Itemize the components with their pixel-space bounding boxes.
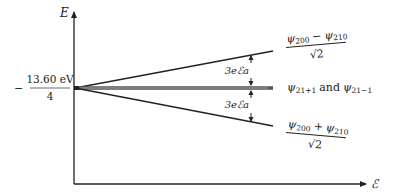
reference-level-label: − 13.60 eV 4 (14, 73, 74, 102)
upper-state-label: ψ200−ψ210 √2 (285, 27, 350, 63)
upper-denominator: √2 (309, 47, 324, 61)
stark-effect-diagram: E ℰ − 13.60 eV 4 3eℰa 3eℰa ψ200−ψ210 √2 (0, 0, 395, 195)
svg-text:ψ200+ψ210: ψ200+ψ210 (287, 118, 349, 137)
lower-denominator: √2 (308, 137, 323, 151)
reference-numerator: 13.60 eV (26, 73, 74, 85)
upper-splitting-label: 3eℰa (225, 65, 249, 76)
reference-denominator: 4 (47, 90, 54, 102)
svg-text:ψ21+1andψ21−1: ψ21+1andψ21−1 (287, 81, 372, 95)
vertex-dot (74, 86, 79, 90)
lower-splitting-label: 3eℰa (225, 99, 249, 110)
energy-axis-label: E (59, 6, 69, 20)
middle-state-label: ψ21+1andψ21−1 (287, 81, 372, 95)
lower-state-label: ψ200+ψ210 √2 (285, 118, 350, 154)
energy-levels (74, 51, 273, 126)
svg-text:ψ200−ψ210: ψ200−ψ210 (286, 27, 348, 46)
reference-sign: − (14, 82, 23, 95)
field-axis-label: ℰ (371, 177, 380, 191)
